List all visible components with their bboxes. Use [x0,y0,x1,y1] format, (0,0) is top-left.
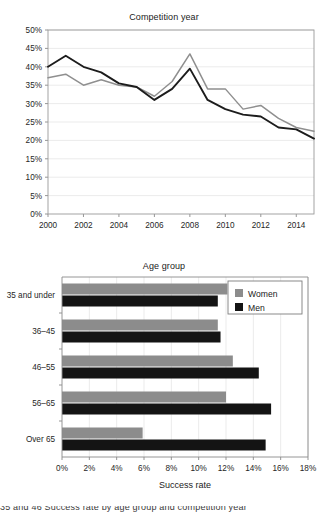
svg-text:35%: 35% [26,81,42,90]
competition-year-chart: Competition year 0%5%10%15%20%25%30%35%4… [0,0,328,255]
bar-men [62,332,221,343]
bar-men [62,440,266,451]
svg-text:10%: 10% [26,173,42,182]
bar-women [62,392,226,403]
svg-text:40%: 40% [26,63,42,72]
svg-text:30%: 30% [26,100,42,109]
svg-text:45%: 45% [26,44,42,53]
line-series-women [48,54,314,131]
bar-women [62,356,233,367]
svg-text:15%: 15% [26,155,42,164]
svg-text:18%: 18% [300,464,316,473]
bar-axis-title: Success rate [159,480,211,490]
line-chart-plot: 0%5%10%15%20%25%30%35%40%45%50%200020022… [0,22,328,250]
svg-text:20%: 20% [26,136,42,145]
svg-text:0%: 0% [56,464,68,473]
svg-text:2010: 2010 [216,221,235,230]
legend-swatch-men [235,303,243,311]
line-chart-title: Competition year [0,0,328,22]
bar-women [62,428,143,439]
svg-text:25%: 25% [26,118,42,127]
bar-women [62,284,227,295]
svg-text:4%: 4% [111,464,123,473]
bar-chart-plot: 0%2%4%6%8%10%12%14%16%18%35 and under36–… [0,271,328,507]
svg-text:2012: 2012 [252,221,271,230]
line-chart-svg: 0%5%10%15%20%25%30%35%40%45%50%200020022… [0,22,328,250]
cropped-caption-text: 35 and 46 Success rate by age group and … [0,506,328,512]
legend-label-men: Men [248,303,265,313]
svg-text:12%: 12% [218,464,234,473]
svg-text:10%: 10% [190,464,206,473]
bar-category-label: 36–45 [32,327,55,336]
svg-text:50%: 50% [26,26,42,35]
svg-text:2014: 2014 [287,221,306,230]
bar-men [62,296,218,307]
svg-text:2%: 2% [83,464,95,473]
svg-text:0%: 0% [30,210,42,219]
bar-category-label: Over 65 [26,435,56,444]
svg-text:6%: 6% [138,464,150,473]
bar-chart-title: Age group [0,255,328,271]
bar-category-label: 56–65 [32,399,55,408]
svg-text:8%: 8% [165,464,177,473]
svg-text:2000: 2000 [39,221,58,230]
bar-category-label: 35 and under [7,291,56,300]
svg-text:2006: 2006 [145,221,164,230]
svg-text:2008: 2008 [181,221,200,230]
legend-label-women: Women [248,289,278,299]
svg-text:16%: 16% [272,464,288,473]
bar-chart-svg: 0%2%4%6%8%10%12%14%16%18%35 and under36–… [0,271,328,507]
svg-text:5%: 5% [30,192,42,201]
svg-text:2004: 2004 [110,221,129,230]
svg-text:14%: 14% [245,464,261,473]
bar-women [62,320,218,331]
bar-men [62,404,271,415]
legend-swatch-women [235,289,243,297]
bar-men [62,368,259,379]
age-group-chart: Age group 0%2%4%6%8%10%12%14%16%18%35 an… [0,255,328,510]
cropped-caption: 35 and 46 Success rate by age group and … [0,506,328,516]
bar-category-label: 46–55 [32,363,55,372]
svg-text:2002: 2002 [74,221,93,230]
